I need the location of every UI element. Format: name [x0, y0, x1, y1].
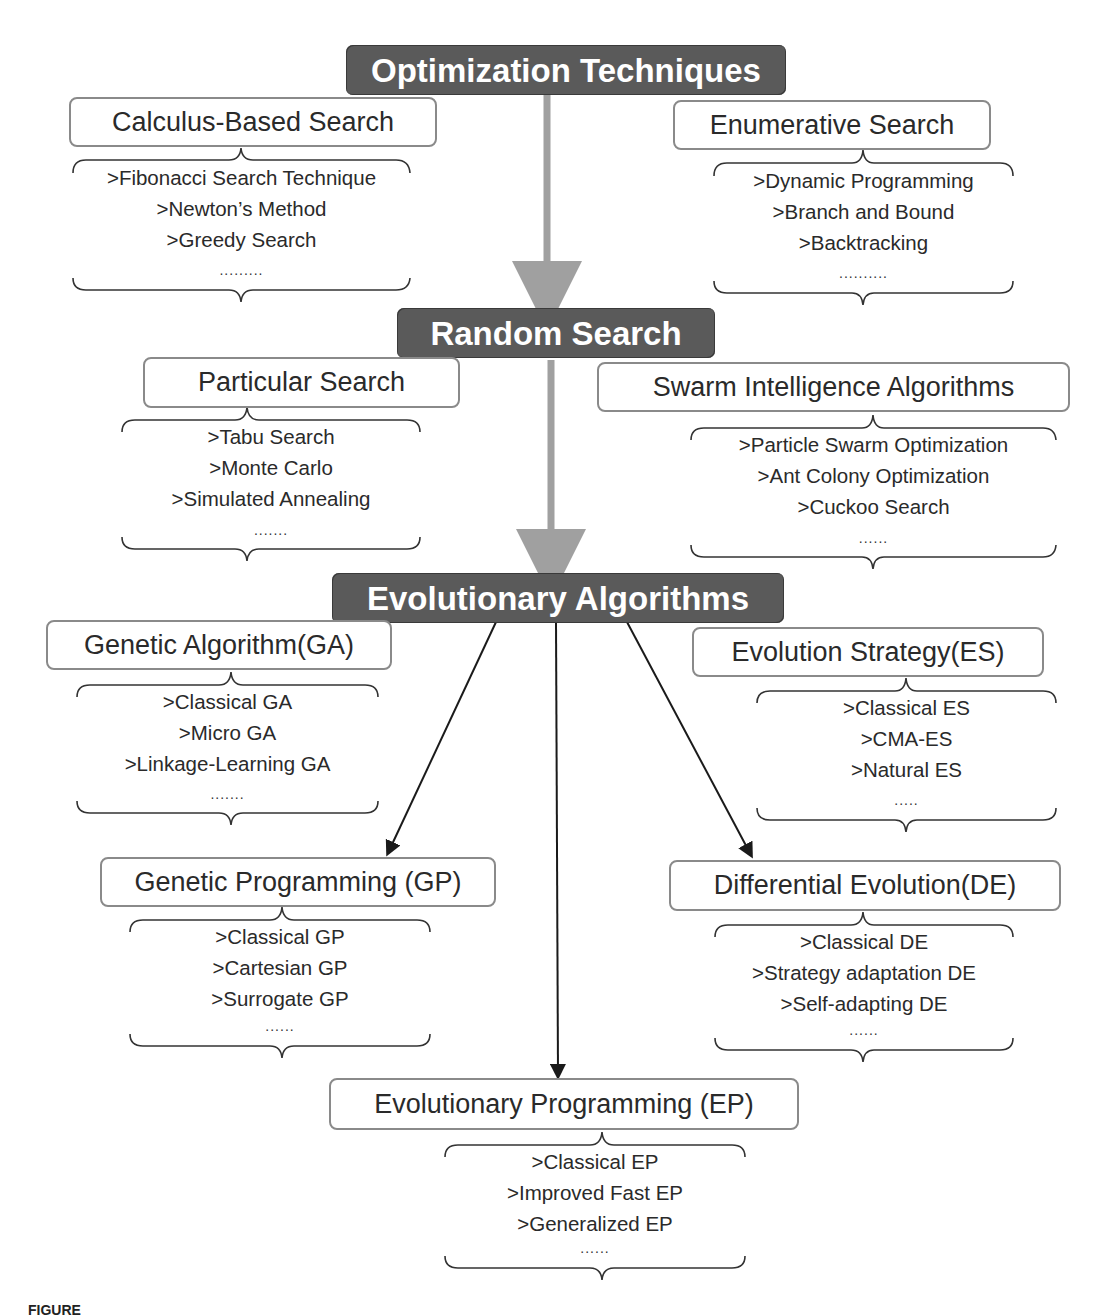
list-item: >Tabu Search — [122, 421, 420, 452]
category-title: Differential Evolution(DE) — [714, 870, 1017, 901]
ellipsis: ...... — [691, 530, 1056, 546]
category-title: Evolutionary Programming (EP) — [374, 1089, 754, 1120]
list-item: >Classical ES — [757, 692, 1056, 723]
ellipsis: .......... — [714, 265, 1013, 281]
level-title: Evolutionary Algorithms — [367, 582, 749, 615]
item-list-particular-search: >Tabu Search >Monte Carlo >Simulated Ann… — [122, 421, 420, 514]
item-list-differential-evolution: >Classical DE >Strategy adaptation DE >S… — [715, 926, 1013, 1019]
list-item: >Cuckoo Search — [691, 491, 1056, 522]
level-box-optimization-techniques: Optimization Techniques — [346, 45, 786, 95]
category-box-evolution-strategy: Evolution Strategy(ES) — [692, 627, 1044, 677]
ellipsis: ..... — [757, 792, 1056, 808]
category-box-calculus-based-search: Calculus-Based Search — [69, 97, 437, 147]
list-item: >Surrogate GP — [130, 983, 430, 1014]
level-title: Random Search — [430, 317, 681, 350]
category-title: Calculus-Based Search — [112, 107, 394, 138]
list-item: >Cartesian GP — [130, 952, 430, 983]
list-item: >Greedy Search — [73, 224, 410, 255]
ellipsis: ......... — [73, 262, 410, 278]
category-title: Genetic Algorithm(GA) — [84, 630, 354, 661]
item-list-calculus-based-search: >Fibonacci Search Technique >Newton’s Me… — [73, 162, 410, 255]
category-box-evolutionary-programming: Evolutionary Programming (EP) — [329, 1078, 799, 1130]
level-box-random-search: Random Search — [397, 308, 715, 358]
list-item: >Newton’s Method — [73, 193, 410, 224]
category-title: Enumerative Search — [710, 110, 955, 141]
list-item: >Self-adapting DE — [715, 988, 1013, 1019]
list-item: >Backtracking — [714, 227, 1013, 258]
list-item: >Generalized EP — [445, 1208, 745, 1239]
list-item: >Fibonacci Search Technique — [73, 162, 410, 193]
item-list-swarm-intelligence-algorithms: >Particle Swarm Optimization >Ant Colony… — [691, 429, 1056, 522]
optimization-taxonomy-diagram: Optimization Techniques Calculus-Based S… — [0, 0, 1119, 1316]
ellipsis: ...... — [715, 1022, 1013, 1038]
category-title: Genetic Programming (GP) — [134, 867, 461, 898]
category-box-particular-search: Particular Search — [143, 357, 460, 408]
list-item: >Natural ES — [757, 754, 1056, 785]
list-item: >Classical GP — [130, 921, 430, 952]
list-item: >Classical EP — [445, 1146, 745, 1177]
level-box-evolutionary-algorithms: Evolutionary Algorithms — [332, 573, 784, 623]
list-item: >Particle Swarm Optimization — [691, 429, 1056, 460]
category-box-enumerative-search: Enumerative Search — [673, 100, 991, 150]
list-item: >Classical GA — [77, 686, 378, 717]
category-box-genetic-programming: Genetic Programming (GP) — [100, 857, 496, 907]
ellipsis: ....... — [122, 522, 420, 538]
list-item: >Micro GA — [77, 717, 378, 748]
category-box-genetic-algorithm: Genetic Algorithm(GA) — [46, 620, 392, 670]
ellipsis: ....... — [77, 786, 378, 802]
category-title: Particular Search — [198, 367, 405, 398]
list-item: >Simulated Annealing — [122, 483, 420, 514]
list-item: >Ant Colony Optimization — [691, 460, 1056, 491]
arrow-ea-to-gp — [388, 622, 496, 853]
list-item: >Strategy adaptation DE — [715, 957, 1013, 988]
item-list-enumerative-search: >Dynamic Programming >Branch and Bound >… — [714, 165, 1013, 258]
item-list-genetic-algorithm: >Classical GA >Micro GA >Linkage-Learnin… — [77, 686, 378, 779]
category-title: Swarm Intelligence Algorithms — [653, 372, 1015, 403]
list-item: >Branch and Bound — [714, 196, 1013, 227]
category-title: Evolution Strategy(ES) — [731, 637, 1004, 668]
ellipsis: ...... — [445, 1240, 745, 1256]
item-list-genetic-programming: >Classical GP >Cartesian GP >Surrogate G… — [130, 921, 430, 1014]
list-item: >Dynamic Programming — [714, 165, 1013, 196]
category-box-swarm-intelligence-algorithms: Swarm Intelligence Algorithms — [597, 362, 1070, 412]
ellipsis: ...... — [130, 1018, 430, 1034]
list-item: >Improved Fast EP — [445, 1177, 745, 1208]
item-list-evolution-strategy: >Classical ES >CMA-ES >Natural ES — [757, 692, 1056, 785]
list-item: >CMA-ES — [757, 723, 1056, 754]
figure-caption: FIGURE — [28, 1302, 81, 1316]
list-item: >Linkage-Learning GA — [77, 748, 378, 779]
item-list-evolutionary-programming: >Classical EP >Improved Fast EP >General… — [445, 1146, 745, 1239]
list-item: >Classical DE — [715, 926, 1013, 957]
level-title: Optimization Techniques — [371, 54, 761, 87]
arrow-ea-to-ep — [556, 622, 558, 1076]
category-box-differential-evolution: Differential Evolution(DE) — [669, 860, 1061, 911]
list-item: >Monte Carlo — [122, 452, 420, 483]
